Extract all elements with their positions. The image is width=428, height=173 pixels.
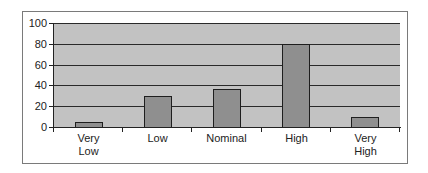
y-tick-label: 40 <box>17 79 47 91</box>
y-tick-mark <box>49 23 54 24</box>
bar-high <box>282 44 310 127</box>
y-tick-mark <box>49 44 54 45</box>
x-tick-label: High <box>262 132 331 145</box>
y-tick-label: 20 <box>17 100 47 112</box>
x-tick-label: Nominal <box>192 132 261 145</box>
y-tick-label: 80 <box>17 38 47 50</box>
x-tick-label: VeryHigh <box>331 132 400 158</box>
bar-nominal <box>213 89 241 127</box>
y-tick-mark <box>49 85 54 86</box>
x-tick-label-line: High <box>262 132 331 145</box>
y-tick-label: 0 <box>17 121 47 133</box>
bar-very-low <box>75 122 103 127</box>
x-tick-label-line: Very <box>331 132 400 145</box>
bar-very-high <box>351 117 379 127</box>
gridline <box>54 65 400 66</box>
x-tick-label-line: High <box>331 145 400 158</box>
bar-low <box>144 96 172 127</box>
y-tick-label: 60 <box>17 59 47 71</box>
x-tick-label-line: Nominal <box>192 132 261 145</box>
x-tick-label-line: Low <box>123 132 192 145</box>
x-tick-label-line: Low <box>54 145 123 158</box>
gridline <box>54 44 400 45</box>
x-tick-label-line: Very <box>54 132 123 145</box>
y-tick-mark <box>49 106 54 107</box>
x-tick-label: VeryLow <box>54 132 123 158</box>
x-axis <box>53 127 401 128</box>
y-tick-mark <box>49 65 54 66</box>
gridline <box>54 23 400 24</box>
gridline <box>54 85 400 86</box>
y-axis <box>53 23 54 128</box>
x-tick-label: Low <box>123 132 192 145</box>
y-tick-label: 100 <box>17 17 47 29</box>
